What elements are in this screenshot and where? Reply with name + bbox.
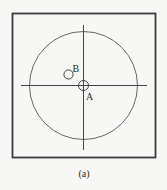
label-a: A	[86, 91, 94, 102]
figure-caption: (a)	[78, 168, 89, 180]
label-b: B	[73, 63, 80, 74]
diagram-canvas: B A (a)	[0, 0, 167, 190]
